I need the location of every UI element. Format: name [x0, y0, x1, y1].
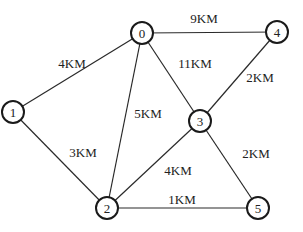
node-label-4: 4 — [274, 25, 281, 40]
edge-label-3-2: 4KM — [164, 163, 192, 178]
edge-label-0-2: 5KM — [134, 106, 162, 121]
node-1: 1 — [2, 101, 24, 123]
edge-label-3-5: 2KM — [242, 146, 270, 161]
graph-svg: 9KM4KM11KM2KM5KM3KM4KM2KM1KM 012345 — [0, 0, 303, 232]
node-label-2: 2 — [104, 201, 111, 216]
edge-3-5 — [200, 121, 258, 208]
edge-0-4 — [142, 32, 277, 33]
edge-label-1-2: 3KM — [69, 145, 97, 160]
edge-1-2 — [13, 112, 107, 208]
edge-label-0-4: 9KM — [190, 11, 218, 26]
edge-0-2 — [107, 33, 142, 208]
edge-label-2-5: 1KM — [168, 192, 196, 207]
edge-label-0-1: 4KM — [58, 56, 86, 71]
node-label-1: 1 — [10, 105, 17, 120]
node-3: 3 — [189, 110, 211, 132]
node-2: 2 — [96, 197, 118, 219]
edge-label-0-3: 11KM — [178, 56, 212, 71]
node-0: 0 — [131, 22, 153, 44]
node-label-5: 5 — [255, 201, 262, 216]
node-5: 5 — [247, 197, 269, 219]
node-label-0: 0 — [139, 26, 146, 41]
edge-labels-layer: 9KM4KM11KM2KM5KM3KM4KM2KM1KM — [58, 11, 274, 207]
edge-0-1 — [13, 33, 142, 112]
edge-label-4-3: 2KM — [246, 70, 274, 85]
node-4: 4 — [266, 21, 288, 43]
node-label-3: 3 — [197, 114, 204, 129]
graph-diagram: 9KM4KM11KM2KM5KM3KM4KM2KM1KM 012345 — [0, 0, 303, 232]
